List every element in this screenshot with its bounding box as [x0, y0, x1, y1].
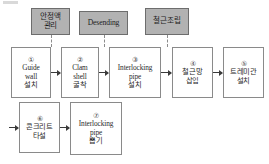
dashed-connector-stabilizer	[51, 35, 52, 47]
control-box-line: Desending	[88, 19, 120, 28]
control-box-line: 관리	[44, 22, 58, 31]
arrow-rebar-cage-to-tremie-pipe	[213, 72, 222, 73]
dashed-connector-rebar	[167, 35, 168, 47]
control-box-rebar-assembly: 철근조립	[145, 8, 189, 35]
process-box-line: 삽입	[186, 77, 200, 85]
process-box-line: 타설	[33, 132, 47, 140]
arrow-into-concrete-placement	[9, 127, 18, 128]
process-box-interlocking-pipe-install: ③ Interlocking pipe 설치	[109, 47, 161, 98]
process-box-interlocking-pipe-extract: ⑦ Interlocking pipe 뽑기	[70, 102, 122, 155]
process-box-tremie-pipe-install: ⑤ 트레미관 설치	[223, 47, 264, 98]
control-box-stabilizer-management: 안정액 관리	[31, 8, 70, 35]
arrow-guide-wall-to-clam-shell	[51, 72, 60, 73]
process-box-guide-wall: ① Guide wall 설치	[11, 47, 51, 98]
process-box-line: 굴착	[73, 81, 87, 89]
dashed-connector-desending	[104, 35, 105, 47]
process-box-rebar-cage-insert: ④ 철근망 삽입	[172, 47, 213, 98]
process-box-line: 설치	[128, 81, 142, 89]
crop-artifact	[3, 1, 18, 4]
process-box-line: 설치	[237, 77, 251, 85]
arrow-clam-shell-to-interlocking-pipe	[99, 72, 108, 73]
process-box-line: 설치	[24, 81, 38, 89]
control-box-desending: Desending	[79, 11, 128, 35]
flowchart-canvas: 안정액 관리 Desending 철근조립 ① Guide wall 설치 ② …	[0, 0, 269, 164]
process-box-line: 뽑기	[89, 137, 103, 145]
process-box-concrete-placement: ⑥ 콘크리트 타설	[19, 102, 60, 153]
arrow-interlocking-pipe-to-rebar-cage	[161, 72, 171, 73]
process-box-clam-shell: ② Clam shell 굴착	[61, 47, 99, 98]
arrow-concrete-to-interlocking-pipe-extract	[60, 127, 69, 128]
control-box-line: 철근조립	[153, 17, 181, 26]
